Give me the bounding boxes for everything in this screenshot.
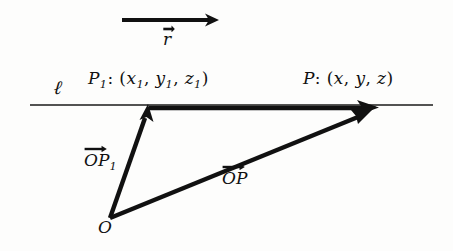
vector-op1-name-wrap: OP — [84, 152, 109, 169]
point-p1-comma-1: , — [144, 68, 150, 88]
point-p1-comma-2: , — [173, 68, 179, 88]
vector-r-label: r — [163, 31, 171, 48]
point-p1-coord-y: y — [156, 68, 166, 88]
vector-r-name-wrap: r — [163, 31, 171, 48]
segment-p1-to-p — [149, 100, 379, 116]
vector-op1-subscript: 1 — [109, 160, 116, 173]
vector-op-label: OP — [222, 170, 247, 187]
point-p1-coord-x: x — [126, 68, 136, 88]
origin-label: O — [98, 219, 112, 236]
point-p-open-paren: ( — [327, 68, 334, 88]
vector-op-name-wrap: OP — [222, 170, 247, 187]
point-p-coord-x: x — [334, 68, 344, 88]
point-p-coord-y: y — [355, 68, 365, 88]
vector-op1-name: OP — [84, 150, 109, 170]
point-p-comma-2: , — [365, 68, 371, 88]
point-p-close-paren: ) — [386, 68, 393, 88]
point-p1-colon: : — [107, 68, 113, 88]
vector-line-diagram: ℓ P1: (x1, y1, z1) P: (x, y, z) OP 1 — [0, 0, 453, 251]
point-p1-close-paren: ) — [202, 68, 209, 88]
point-p-label: P: (x, y, z) — [303, 70, 394, 87]
vector-op1-label: OP 1 — [84, 152, 117, 172]
point-p-comma-1: , — [344, 68, 350, 88]
point-p1-name: P — [88, 68, 100, 88]
vector-op-name: OP — [222, 168, 247, 188]
vector-op — [110, 106, 376, 218]
point-p-colon: : — [315, 68, 321, 88]
point-p1-coord-y-subscript: 1 — [166, 78, 174, 91]
vector-r-name: r — [163, 29, 171, 49]
diagram-canvas — [0, 0, 453, 251]
point-p-name: P — [303, 68, 315, 88]
direction-vector-r-arrow — [122, 14, 219, 27]
point-p1-coord-x-subscript: 1 — [136, 78, 144, 91]
point-p1-label: P1: (x1, y1, z1) — [88, 70, 209, 90]
point-p1-coord-z-subscript: 1 — [194, 78, 202, 91]
point-p1-coord-z: z — [185, 68, 194, 88]
